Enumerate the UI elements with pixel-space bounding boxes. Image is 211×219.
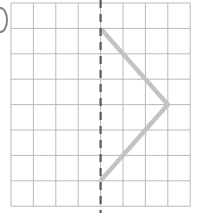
worksheet-figure [0, 0, 211, 219]
symmetry-diagram [0, 0, 211, 219]
